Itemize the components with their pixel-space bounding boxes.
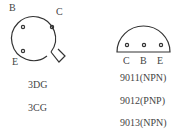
model-label-9011: 9011(NPN) [120, 73, 166, 83]
metal-can-outline [12, 17, 65, 62]
model-label-9012: 9012(PNP) [120, 96, 165, 106]
to92-pin-label-c: C [123, 56, 130, 66]
model-label-3dg: 3DG [28, 80, 47, 90]
to92-pin-label-b: B [140, 56, 147, 66]
pin-label-c: C [56, 7, 63, 17]
transistor-pinout-diagram [0, 0, 176, 135]
to92-outline [117, 26, 170, 52]
pin-label-b: B [9, 3, 16, 13]
to92-pins [125, 43, 162, 46]
metal-can-pins [21, 25, 53, 52]
model-label-3cg: 3CG [28, 103, 47, 113]
model-label-9013: 9013(NPN) [120, 118, 167, 128]
to92-pin-label-e: E [157, 56, 163, 66]
pin-label-e: E [12, 57, 18, 67]
